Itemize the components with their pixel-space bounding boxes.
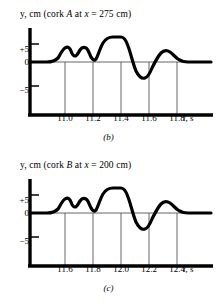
panel-b-svg	[0, 26, 217, 124]
panel-c-svg	[0, 177, 217, 275]
panel-c-x-tick-2: 12.0	[113, 264, 129, 274]
panel-b-y-ticks	[31, 44, 39, 86]
panel-c-x-tick-0: 11.6	[57, 264, 72, 274]
panel-c-plot-area	[0, 177, 217, 275]
panel-b-x-tick-2: 11.4	[113, 113, 128, 123]
panel-c-y-label-bottom: −5	[7, 236, 29, 246]
chart-panel-c: y, cm (cork B at x = 200 cm) +5 0 −5 11.…	[0, 151, 217, 302]
panel-b-x-axis-name: t, s	[183, 113, 194, 123]
chart-panel-b: y, cm (cork A at x = 275 cm)	[0, 0, 217, 151]
panel-c-title-suffix: = 200 cm)	[89, 160, 132, 170]
panel-b-y-label-bottom: −5	[7, 85, 29, 95]
panel-b-y-label-mid: 0	[7, 57, 29, 67]
panel-b-x-axis-unit: , s	[186, 113, 194, 123]
panel-c-x-axis-name: t, s	[183, 264, 194, 274]
panel-b-x-tick-3: 11.6	[141, 113, 156, 123]
panel-c-title-mid: at	[72, 160, 84, 170]
panel-b-gridlines	[65, 62, 177, 114]
panel-b-label: (b)	[0, 132, 217, 142]
panel-b-x-tick-0: 11.0	[57, 113, 72, 123]
panel-c-y-ticks	[31, 195, 39, 237]
panel-b-plot-area	[0, 26, 217, 124]
panel-b-y-label-top: +5	[7, 44, 29, 54]
panel-c-x-tick-3: 12.2	[141, 264, 157, 274]
panel-c-title: y, cm (cork B at x = 200 cm)	[20, 160, 131, 170]
panel-c-y-label-top: +5	[7, 195, 29, 205]
panel-c-x-tick-1: 11.8	[85, 264, 100, 274]
panel-c-gridlines	[65, 213, 177, 265]
panel-c-label: (c)	[0, 283, 217, 293]
panel-c-y-label-mid: 0	[7, 208, 29, 218]
panel-b-x-tick-1: 11.2	[85, 113, 100, 123]
panel-b-title-mid: at	[72, 9, 84, 19]
panel-b-title: y, cm (cork A at x = 275 cm)	[20, 9, 131, 19]
panel-c-title-prefix: y, cm (cork	[20, 160, 66, 170]
panel-b-title-prefix: y, cm (cork	[20, 9, 66, 19]
panel-c-x-axis-unit: , s	[186, 264, 194, 274]
panel-b-title-suffix: = 275 cm)	[89, 9, 132, 19]
